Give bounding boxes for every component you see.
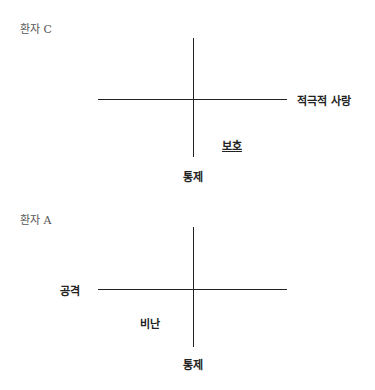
vertical-axis (193, 38, 194, 157)
axis-label-bottom: 통제 (183, 168, 203, 184)
horizontal-axis (98, 289, 287, 290)
quadrant-label: 보호 (222, 137, 242, 153)
axis-label-left: 공격 (60, 282, 80, 298)
axis-label-bottom: 통제 (183, 356, 203, 372)
diagram-title: 환자 C (20, 20, 52, 36)
quadrant-label: 비난 (140, 315, 160, 331)
horizontal-axis (98, 99, 287, 100)
diagram-title: 환자 A (20, 211, 51, 227)
axis-label-right: 적극적 사랑 (297, 92, 351, 108)
vertical-axis (193, 227, 194, 347)
